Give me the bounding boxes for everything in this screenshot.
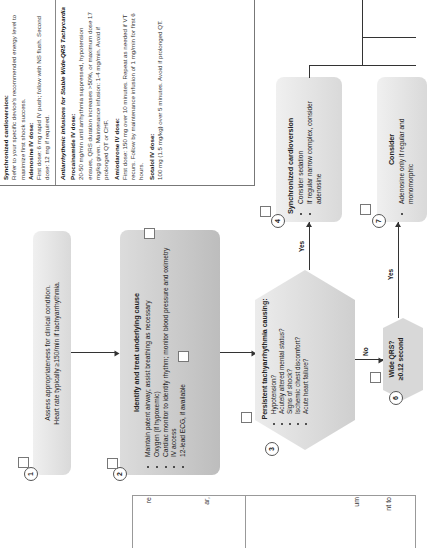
decision-persistent-tachyarrhythmia: Persistent tachyarrhythmia causing: Hypo… [255,270,355,450]
connector-line [309,66,310,78]
bullet-item: IV access [170,238,179,457]
bullet-item: Maintain patent airway; assist breathing… [144,238,153,457]
node-text: Heart rate typically ≥150/min if tachyar… [52,239,61,467]
bullet-item: Cardiac monitor to identify rhythm; moni… [162,238,171,457]
arrow-head [306,222,312,227]
node-title: Consider [387,85,396,214]
edge-label-no: No [362,347,369,356]
dosing-text: Refer to your specific device's recommen… [10,5,27,180]
step-number-2: 2 [113,467,127,481]
node-title: Persistent tachyarrhythmia causing: [261,294,270,424]
node-bullets: Hypotension? Acutely altered mental stat… [270,294,310,424]
step-number-6: 6 [389,391,403,405]
checkbox-step-1[interactable] [18,457,29,468]
dosing-heading: Procainamide IV dose: [69,5,77,180]
divider [55,0,56,185]
partial-table: re ar, um nt to [132,495,416,548]
bullet-item: Acutely altered mental status? [278,294,286,414]
table-cell: um [353,497,360,507]
bullet-item: Consider sedation [297,85,306,204]
node-title: Synchronized cardioversion [286,85,295,214]
checkbox-step-2[interactable] [107,458,118,469]
arrow-head [115,351,120,357]
dosing-heading: Synchronized cardioversion: [2,5,10,180]
bullet-item: Ischemic chest discomfort? [294,294,302,414]
node-title: Identify and treat underlying cause [132,238,141,467]
dosing-section-title: Antiarrhythmic Infusions for Stable Wide… [59,5,67,180]
bullet-item: Hypotension? [270,294,278,414]
table-row: re ar, [133,495,246,548]
step-number-7: 7 [372,214,386,228]
connector-line [309,222,310,270]
bullet-item: Adenosine only if regular and monomorphi… [398,85,416,204]
dosing-text: 20-50 mg/min until arrhythmia suppressed… [77,5,110,180]
node-synchronized-cardioversion: Synchronized cardioversion Consider seda… [276,77,342,222]
connector-line [362,0,363,38]
dosing-panel: Synchronized cardioversion: Refer to you… [0,0,255,186]
dosing-text: First dose: 6 mg rapid IV push; follow w… [35,5,52,180]
connector-line [362,38,363,66]
decision-wide-qrs: Wide QRS? ≥0.12 second [383,318,416,400]
step-number-3: 3 [265,442,279,456]
dosing-heading: Sotalol IV dose: [148,5,156,180]
decision-content: Persistent tachyarrhythmia causing: Hypo… [261,294,310,424]
node-title: Wide QRS? [388,318,397,400]
edge-label-yes: Yes [387,269,394,280]
decision-content: Wide QRS? ≥0.12 second [388,318,405,400]
bullet-item: Signs of shock? [286,294,294,414]
node-consider: Consider Adenosine only if regular and m… [377,77,427,222]
bullet-item: If regular narrow complex, consider aden… [306,85,324,204]
dosing-text: First dose: 150 mg over 10 minutes. Repe… [121,5,146,180]
checkbox-step-7[interactable] [360,204,371,215]
node-bullets: Consider sedation If regular narrow comp… [297,85,323,214]
node-subtitle: ≥0.12 second [397,318,406,400]
arrow-head [395,222,401,227]
dosing-text: 100 mg (1.5 mg/kg) over 5 minutes. Avoid… [156,5,164,180]
table-row: um nt to [245,495,415,548]
connector-line [398,222,399,318]
bullet-item: Oxygen (if hypoxemic) [153,238,162,457]
node-assess: Assess appropriateness for clinical cond… [33,231,71,475]
node-identify-treat: Identify and treat underlying cause Main… [120,230,220,475]
connector-line [220,352,253,353]
checkbox-step-4[interactable] [260,206,271,217]
node-text: Assess appropriateness for clinical cond… [43,239,52,467]
dosing-heading: Adenosine IV dose: [27,5,35,180]
checkbox-step-2b[interactable] [144,228,155,239]
step-number-4: 4 [271,214,285,228]
checkbox-step-3[interactable] [241,412,252,423]
table-cell: ar, [203,497,210,505]
checkbox-step-6[interactable] [370,372,381,383]
checkbox-step-2c[interactable] [178,351,189,362]
dosing-heading: Amiodarone IV dose: [113,5,121,180]
connector-line [362,37,416,38]
step-number-1: 1 [24,467,38,481]
table-cell: nt to [385,497,392,511]
node-bullets: Adenosine only if regular and monomorphi… [398,85,416,214]
table-cell: re [145,497,152,503]
edge-label-yes: Yes [298,241,305,252]
connector-line [71,352,115,353]
bullet-item: 12-lead ECG, if available [179,238,188,457]
bullet-item: Acute heart failure? [302,294,310,414]
